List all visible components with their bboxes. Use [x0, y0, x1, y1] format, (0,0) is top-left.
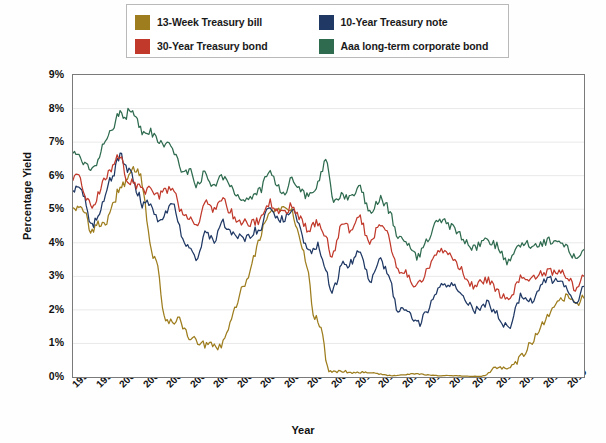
series-line-13-week-treasury-bill — [73, 167, 584, 377]
y-tick-label: 9% — [30, 68, 64, 80]
legend-swatch-icon — [135, 39, 150, 54]
y-tick-label: 4% — [30, 236, 64, 248]
legend-item-13-week-treasury-bill: 13-Week Treasury bill — [135, 15, 319, 30]
y-tick-label: 0% — [30, 370, 64, 382]
y-tick-label: 6% — [30, 169, 64, 181]
y-tick-label: 3% — [30, 269, 64, 281]
legend-item-aaa-long-term-corporate-bond: Aaa long-term corporate bond — [319, 39, 503, 54]
y-tick-label: 5% — [30, 202, 64, 214]
y-tick-label: 1% — [30, 336, 64, 348]
plot-area — [72, 74, 585, 378]
y-tick-label: 2% — [30, 303, 64, 315]
legend-label: Aaa long-term corporate bond — [341, 40, 489, 52]
legend-label: 30-Year Treasury bond — [157, 40, 268, 52]
legend-row: 13-Week Treasury bill 10-Year Treasury n… — [135, 10, 502, 34]
series-canvas — [73, 75, 584, 377]
legend-swatch-icon — [319, 15, 334, 30]
legend-swatch-icon — [319, 39, 334, 54]
chart-container: 13-Week Treasury bill 10-Year Treasury n… — [0, 0, 606, 443]
x-axis-title: Year — [0, 424, 606, 436]
legend-item-10-year-treasury-note: 10-Year Treasury note — [319, 15, 503, 30]
chart-legend: 13-Week Treasury bill 10-Year Treasury n… — [126, 4, 509, 58]
legend-swatch-icon — [135, 15, 150, 30]
legend-label: 10-Year Treasury note — [341, 16, 448, 28]
legend-item-30-year-treasury-bond: 30-Year Treasury bond — [135, 39, 319, 54]
legend-row: 30-Year Treasury bond Aaa long-term corp… — [135, 34, 502, 58]
y-tick-label: 8% — [30, 102, 64, 114]
legend-label: 13-Week Treasury bill — [157, 16, 262, 28]
y-tick-label: 7% — [30, 135, 64, 147]
